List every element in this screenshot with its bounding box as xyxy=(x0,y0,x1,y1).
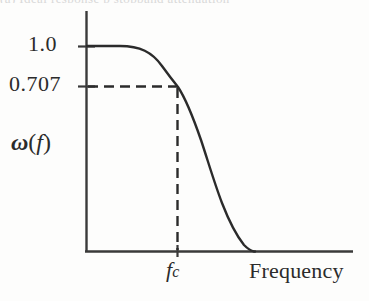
response-curve xyxy=(87,46,255,252)
close-paren: ) xyxy=(43,129,51,155)
y-axis-label: ω(f) xyxy=(11,130,51,154)
omega-glyph: ω xyxy=(11,129,28,155)
y-tick-label-0.707: 0.707 xyxy=(9,73,61,95)
x-axis-label: Frequency xyxy=(249,260,344,282)
x-tick-label-fc: fc xyxy=(166,259,179,281)
y-tick-label-1.0: 1.0 xyxy=(28,33,57,55)
fc-subscript: c xyxy=(172,263,179,280)
figure-container: (a) Ideal response p stopband attenuatio… xyxy=(0,0,369,301)
